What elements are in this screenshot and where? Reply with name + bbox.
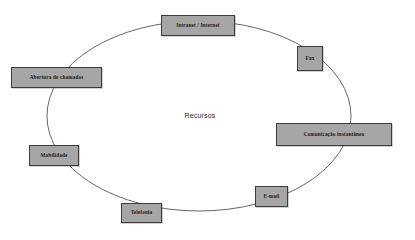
node-label: Comunicação instantânea [304, 131, 365, 137]
node-label: Fax [306, 55, 315, 61]
node-label: E-mail [264, 193, 280, 199]
node-intranet-internet[interactable]: Intranet / Internet [161, 15, 235, 36]
node-abertura-de-chamados[interactable]: Abertura de chamados [11, 67, 102, 88]
node-e-mail[interactable]: E-mail [255, 186, 288, 207]
node-mobilidade[interactable]: Mobilidade [29, 145, 79, 166]
node-label: Abertura de chamados [30, 74, 84, 80]
node-label: Telefonia [131, 210, 153, 216]
node-label: Mobilidade [41, 152, 68, 158]
diagram-canvas: Intranet / Internet Fax Comunicação inst… [0, 0, 415, 240]
node-telefonia[interactable]: Telefonia [121, 203, 162, 223]
node-comunicacao-instantanea[interactable]: Comunicação instantânea [276, 123, 392, 146]
center-label: Recursos [160, 112, 240, 119]
node-label: Intranet / Internet [176, 22, 219, 28]
cycle-ring [0, 0, 415, 240]
node-fax[interactable]: Fax [297, 46, 323, 71]
